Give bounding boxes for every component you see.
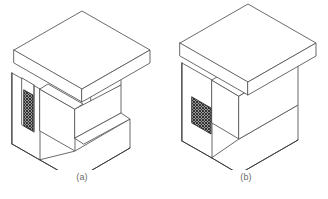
top-slab-top-face-a [14, 11, 150, 89]
section-hatch-a [24, 90, 33, 131]
figure-a-drawing [0, 0, 164, 170]
figure-b-caption: (b) [164, 172, 328, 182]
figure-a-caption: (a) [0, 172, 164, 182]
figure-b-drawing [164, 0, 328, 170]
figure-panel-b: (b) [164, 0, 328, 199]
figure-plate: (a) [0, 0, 328, 199]
figure-panel-a: (a) [0, 0, 164, 199]
